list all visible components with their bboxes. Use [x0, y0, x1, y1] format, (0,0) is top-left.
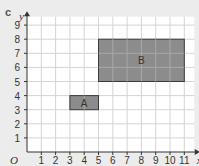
y-tick-label: 1 [14, 133, 20, 144]
y-axis-arrow-icon [24, 11, 30, 16]
y-tick-label: 2 [14, 119, 20, 130]
origin-label: O [10, 154, 18, 166]
x-tick-label: 5 [96, 155, 102, 166]
x-tick-label: 2 [53, 155, 59, 166]
grid-background [27, 17, 194, 152]
x-tick-label: 7 [124, 155, 130, 166]
shape-label-a: A [81, 98, 88, 109]
y-tick-label: 5 [14, 77, 20, 88]
y-tick-label: 3 [14, 105, 20, 116]
x-tick-label: 10 [164, 155, 176, 166]
x-axis-label: x [196, 154, 199, 166]
shape-label-b: B [138, 55, 145, 66]
x-tick-label: 4 [81, 155, 87, 166]
y-tick-label: 6 [14, 62, 20, 73]
x-tick-label: 3 [67, 155, 73, 166]
coordinate-grid: AB1234567891011123456789Oxyc [0, 0, 199, 166]
y-tick-label: 8 [14, 34, 20, 45]
x-tick-label: 11 [179, 155, 190, 166]
part-label: c [5, 6, 11, 18]
y-axis-label: y [18, 10, 24, 22]
x-tick-label: 6 [110, 155, 116, 166]
y-tick-label: 4 [14, 91, 20, 102]
x-tick-label: 1 [39, 155, 45, 166]
x-tick-label: 8 [139, 155, 145, 166]
x-tick-label: 9 [153, 155, 159, 166]
y-tick-label: 7 [14, 48, 20, 59]
